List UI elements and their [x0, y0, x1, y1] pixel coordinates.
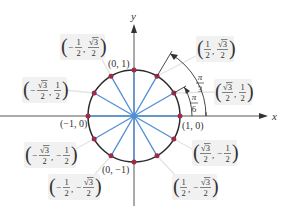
svg-text:1: 1 — [240, 82, 244, 92]
label-point-120: (−12,√32) — [60, 34, 107, 60]
label-point-60: (12,√32) — [196, 36, 236, 62]
svg-text:(: ( — [215, 80, 222, 103]
svg-text:2: 2 — [225, 154, 229, 164]
label-point-330: (√32,−12) — [192, 140, 239, 166]
svg-text:−: − — [56, 150, 61, 160]
svg-text:2: 2 — [203, 154, 207, 164]
svg-text:2: 2 — [64, 188, 68, 198]
svg-text:1: 1 — [76, 37, 80, 47]
svg-text:,: , — [83, 44, 85, 54]
svg-text:2: 2 — [40, 91, 44, 101]
point-90 — [132, 68, 137, 73]
label-point-180: (−1, 0) — [60, 118, 87, 130]
label-point-300: (12,−√32) — [172, 174, 219, 200]
origin-dot — [131, 113, 136, 118]
arc-pi-over-3-arrow-icon — [170, 54, 178, 60]
svg-text:√3: √3 — [40, 145, 49, 155]
svg-text:π: π — [192, 92, 197, 102]
svg-text:6: 6 — [192, 104, 197, 114]
svg-text:1: 1 — [64, 145, 68, 155]
svg-text:1: 1 — [225, 143, 229, 153]
svg-text:(: ( — [173, 175, 180, 198]
svg-text:√3: √3 — [84, 177, 93, 187]
y-axis-label: y — [130, 10, 136, 22]
svg-text:(: ( — [49, 175, 56, 198]
svg-text:2: 2 — [76, 48, 80, 58]
svg-text:−: − — [217, 148, 222, 158]
svg-text:,: , — [212, 46, 214, 56]
point-270 — [132, 160, 137, 165]
svg-text:,: , — [49, 87, 51, 97]
svg-text:,: , — [212, 150, 214, 160]
svg-text:,: , — [188, 184, 190, 194]
svg-text:(: ( — [193, 141, 200, 164]
svg-text:√3: √3 — [223, 82, 232, 92]
label-point-270: (0, −1) — [102, 164, 129, 176]
svg-text:): ) — [212, 175, 219, 198]
svg-text:): ) — [229, 37, 236, 60]
svg-text:): ) — [71, 143, 78, 166]
svg-text:(: ( — [197, 37, 204, 60]
svg-text:2: 2 — [220, 50, 224, 60]
svg-text:1: 1 — [181, 177, 185, 187]
svg-text:2: 2 — [225, 93, 229, 103]
label-point-90: (0, 1) — [108, 58, 130, 70]
svg-text:2: 2 — [86, 188, 90, 198]
svg-text:2: 2 — [203, 188, 207, 198]
label-point-210: (−√32,−12) — [24, 142, 78, 168]
svg-text:√3: √3 — [201, 177, 210, 187]
x-axis-arrow-icon — [259, 113, 268, 119]
svg-text:π: π — [198, 72, 203, 82]
label-point-0: (1, 0) — [182, 120, 204, 132]
unit-circle-diagram: x y — [0, 0, 284, 216]
svg-text:√3: √3 — [38, 80, 47, 90]
svg-text:−: − — [76, 182, 81, 192]
svg-text:−: − — [30, 85, 35, 95]
angle-label-pi-over-3: π 3 — [196, 72, 204, 94]
svg-text:2: 2 — [205, 50, 209, 60]
svg-text:√3: √3 — [89, 37, 98, 47]
point-120 — [109, 74, 114, 79]
svg-text:): ) — [62, 78, 69, 101]
point-330 — [171, 137, 176, 142]
svg-text:√3: √3 — [201, 143, 210, 153]
svg-text:): ) — [95, 175, 102, 198]
svg-text:2: 2 — [42, 156, 46, 166]
svg-text:−: − — [68, 42, 73, 52]
svg-text:2: 2 — [240, 93, 244, 103]
svg-text:−: − — [193, 182, 198, 192]
label-point-240: (−12,−√32) — [48, 174, 102, 200]
svg-text:(: ( — [61, 35, 68, 58]
svg-text:2: 2 — [64, 156, 68, 166]
svg-text:−: − — [56, 182, 61, 192]
point-240 — [109, 153, 114, 158]
svg-text:): ) — [100, 35, 107, 58]
svg-text:√3: √3 — [218, 39, 227, 49]
label-point-30: (√32,12) — [214, 79, 254, 105]
x-axis-label: x — [271, 110, 277, 122]
point-150 — [92, 91, 97, 96]
fraction-coordinate-labels: (√32,12)(12,√32)(−12,√32)(−√32,12)(−√32,… — [22, 34, 254, 200]
svg-text:): ) — [232, 141, 239, 164]
svg-text:1: 1 — [205, 39, 209, 49]
label-point-150: (−√32,12) — [22, 77, 69, 103]
svg-text:,: , — [234, 89, 236, 99]
svg-text:,: , — [51, 152, 53, 162]
svg-text:2: 2 — [91, 48, 95, 58]
svg-text:−: − — [32, 150, 37, 160]
point-300 — [155, 153, 160, 158]
svg-text:(: ( — [25, 143, 32, 166]
svg-text:3: 3 — [198, 84, 203, 94]
y-axis-arrow-icon — [131, 24, 137, 33]
svg-text:2: 2 — [181, 188, 185, 198]
point-210 — [92, 137, 97, 142]
angle-label-pi-over-6: π 6 — [190, 92, 198, 114]
svg-text:2: 2 — [55, 91, 59, 101]
svg-text:): ) — [247, 80, 254, 103]
svg-text:,: , — [71, 184, 73, 194]
svg-text:(: ( — [23, 78, 30, 101]
svg-text:1: 1 — [55, 80, 59, 90]
point-0 — [178, 114, 183, 119]
svg-text:1: 1 — [64, 177, 68, 187]
